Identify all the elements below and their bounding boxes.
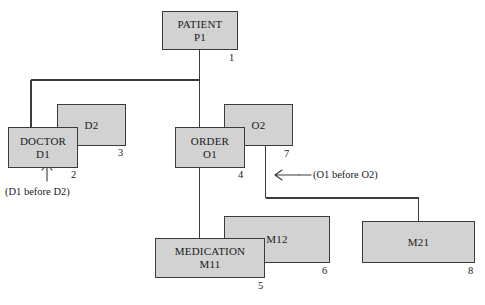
node-m21-label-line1: M21 bbox=[408, 236, 429, 249]
annotation-d1-before-d2: (D1 before D2) bbox=[5, 186, 70, 197]
node-number-medication-m11: 5 bbox=[258, 280, 263, 291]
node-number-patient-p1: 1 bbox=[229, 52, 234, 63]
node-number-order-o1: 4 bbox=[238, 169, 243, 180]
node-o2-label-line1: O2 bbox=[252, 119, 266, 132]
node-medication-m11-label-line2: M11 bbox=[200, 258, 221, 271]
node-m21[interactable]: M21 bbox=[362, 221, 475, 263]
node-number-doctor-d1: 2 bbox=[71, 169, 76, 180]
annotation-o1-before-o2: (O1 before O2) bbox=[313, 169, 378, 180]
node-number-m21: 8 bbox=[468, 265, 473, 276]
node-medication-m11[interactable]: MEDICATION M11 bbox=[155, 238, 265, 278]
node-number-d2: 3 bbox=[118, 147, 123, 158]
node-number-m12: 6 bbox=[322, 265, 327, 276]
node-medication-m11-label-line1: MEDICATION bbox=[175, 245, 245, 258]
arrow-o1-before-o2 bbox=[275, 170, 299, 180]
node-order-o1-label-line1: ORDER bbox=[191, 135, 229, 148]
node-patient-p1-label-line1: PATIENT bbox=[178, 18, 223, 31]
node-doctor-d1-label-line1: DOCTOR bbox=[20, 135, 66, 148]
node-patient-p1[interactable]: PATIENT P1 bbox=[162, 11, 238, 50]
node-doctor-d1[interactable]: DOCTOR D1 bbox=[8, 127, 78, 168]
node-d2-label-line1: D2 bbox=[85, 119, 99, 132]
node-m12-label-line1: M12 bbox=[266, 233, 287, 246]
node-order-o1[interactable]: ORDER O1 bbox=[175, 127, 245, 168]
node-doctor-d1-label-line2: D1 bbox=[36, 148, 50, 161]
node-patient-p1-label-line2: P1 bbox=[194, 31, 206, 44]
node-order-o1-label-line2: O1 bbox=[203, 148, 217, 161]
diagram-canvas: D2 O2 M12 PATIENT P1 DOCTOR D1 ORDER O1 … bbox=[0, 0, 485, 305]
node-number-o2: 7 bbox=[284, 148, 289, 159]
